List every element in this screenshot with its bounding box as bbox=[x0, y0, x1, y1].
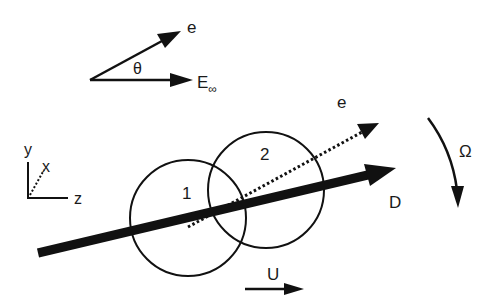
y-axis-label: y bbox=[24, 141, 32, 158]
rotation-arrowhead-icon bbox=[451, 186, 464, 208]
particle-2-label: 2 bbox=[260, 145, 269, 164]
e-label: e bbox=[187, 18, 196, 37]
dipole-label: D bbox=[389, 193, 401, 212]
e-infinity-arrowhead-icon bbox=[170, 73, 193, 87]
x-axis-label: x bbox=[42, 158, 50, 175]
dipole-arrow-shaft bbox=[38, 174, 372, 253]
z-axis-label: z bbox=[74, 190, 82, 207]
e-orientation-label: e bbox=[337, 93, 346, 112]
e-infinity-subscript: ∞ bbox=[208, 82, 217, 96]
rotation-curved-arrow bbox=[428, 118, 457, 190]
velocity-arrowhead-icon bbox=[284, 283, 304, 295]
angle-inset: e θ E∞ bbox=[90, 18, 217, 96]
velocity-label: U bbox=[267, 265, 279, 284]
e-vector-arrow bbox=[90, 41, 162, 80]
e-infinity-label: E∞ bbox=[197, 73, 217, 96]
coordinate-axes: y x z bbox=[24, 141, 82, 207]
diagram-canvas: e θ E∞ y x z 1 2 e D Ω U bbox=[0, 0, 501, 303]
e-infinity-main: E bbox=[197, 73, 208, 92]
dipole-arrowhead-icon bbox=[364, 164, 396, 186]
e-arrowhead-icon bbox=[157, 31, 181, 48]
e-orientation-arrowhead-icon bbox=[357, 123, 379, 139]
theta-label: θ bbox=[133, 60, 142, 77]
particle-1-label: 1 bbox=[182, 184, 191, 203]
rotation-label: Ω bbox=[459, 142, 472, 161]
